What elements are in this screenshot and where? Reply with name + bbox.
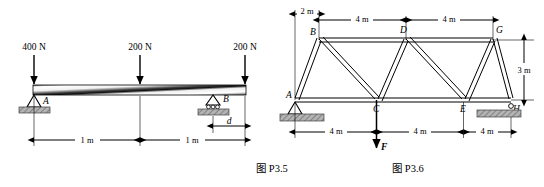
- node-label-b: B: [310, 27, 316, 37]
- dimension-label-left-1m: 1 m: [81, 135, 94, 145]
- member-gh: [493, 38, 513, 99]
- node-label-e: E: [459, 104, 466, 114]
- load-arrow-200n-right: 200 N: [233, 42, 257, 84]
- support-b-roller: B: [198, 94, 229, 115]
- truss-dim-label-bot-4m-2: 4 m: [414, 126, 427, 136]
- figure-truss-p36: 2 m 4 m 4 m: [272, 0, 544, 187]
- load-label-200n-mid: 200 N: [128, 42, 152, 52]
- truss-top-dimensions: 2 m 4 m 4 m: [295, 6, 493, 100]
- member-bc: [319, 37, 379, 99]
- truss-dim-label-top-4m-2: 4 m: [443, 14, 456, 24]
- truss-dim-label-top-4m-1: 4 m: [356, 14, 369, 24]
- figure-beam-p35: 400 N 200 N 200 N A B d: [0, 0, 272, 187]
- truss-diagram-svg: 2 m 4 m 4 m: [272, 0, 544, 160]
- truss-dim-label-bot-4m-1: 4 m: [330, 126, 343, 136]
- dimension-d: d: [213, 116, 245, 126]
- load-arrow-200n-mid: 200 N: [128, 42, 152, 84]
- load-arrow-400n: 400 N: [22, 42, 46, 84]
- node-label-d: D: [399, 25, 407, 35]
- support-label-a: A: [42, 96, 49, 106]
- beam-member: [33, 85, 246, 95]
- dimension-left-1m: 1 m: [34, 133, 140, 145]
- dimension-label-d: d: [227, 116, 232, 126]
- truss-bottom-dimensions: 4 m 4 m 4 m: [295, 102, 511, 138]
- beam-diagram-svg: 400 N 200 N 200 N A B d: [0, 0, 272, 160]
- truss-dim-label-bot-4m-3: 4 m: [481, 126, 494, 136]
- member-bottom-chord: [295, 98, 511, 102]
- truss-load-label-f: F: [380, 142, 388, 152]
- member-de: [406, 37, 466, 99]
- dimension-label-right-1m: 1 m: [186, 135, 199, 145]
- member-cd: [378, 39, 408, 101]
- dimension-right-1m: 1 m: [140, 133, 245, 145]
- member-eg: [465, 39, 495, 101]
- node-label-g: G: [496, 25, 503, 35]
- load-label-200n-right: 200 N: [233, 42, 257, 52]
- truss-dim-label-2m: 2 m: [301, 6, 314, 16]
- support-label-b: B: [223, 94, 229, 104]
- truss-members: [295, 37, 513, 102]
- load-label-400n: 400 N: [22, 42, 46, 52]
- member-ab: [295, 38, 321, 100]
- support-a-pin: A: [19, 95, 50, 113]
- node-label-a: A: [285, 90, 292, 100]
- truss-support-a-pin: [280, 102, 324, 121]
- caption-figure-p36: 图 P3.6: [272, 160, 544, 175]
- truss-dim-label-3m: 3 m: [518, 65, 531, 75]
